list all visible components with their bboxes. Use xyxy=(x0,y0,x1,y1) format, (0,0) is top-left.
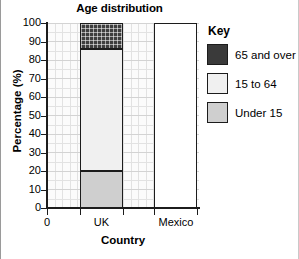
y-tick-50 xyxy=(41,116,47,117)
x-tick-label-mexico: Mexico xyxy=(146,216,206,228)
bar-uk-segment-15-to-64[interactable] xyxy=(80,49,123,171)
y-tick-40 xyxy=(41,134,47,135)
x-axis-title: Country xyxy=(47,234,199,246)
legend-label-15-to-64: 15 to 64 xyxy=(235,78,277,90)
y-tick-label-100: 100 xyxy=(7,17,41,28)
x-tick-uk-left xyxy=(80,209,81,215)
y-tick-100 xyxy=(41,23,47,24)
x-tick-mexico-right xyxy=(197,209,198,215)
y-tick-80 xyxy=(41,60,47,61)
y-axis-title: Percentage (%) xyxy=(11,41,23,181)
legend-title: Key xyxy=(208,24,299,38)
light-gray-swatch-icon xyxy=(207,102,228,123)
plot-area xyxy=(47,23,199,208)
white-swatch-icon xyxy=(207,73,228,94)
chart-title: Age distribution xyxy=(37,2,202,14)
legend-label-under-15: Under 15 xyxy=(235,107,282,119)
y-tick-label-0: 0 xyxy=(7,202,41,213)
bar-uk-segment-under-15[interactable] xyxy=(80,171,123,208)
y-tick-70 xyxy=(41,79,47,80)
x-tick-origin xyxy=(47,209,48,215)
legend-item-65-and-over[interactable]: 65 and over xyxy=(207,44,299,65)
y-tick-90 xyxy=(41,42,47,43)
legend: Key 65 and over 15 to 64 Under 15 xyxy=(207,24,299,131)
x-tick-mexico-left xyxy=(154,209,155,215)
x-axis-origin-label: 0 xyxy=(39,216,55,228)
bar-mexico-empty-outline[interactable] xyxy=(154,23,197,208)
y-tick-30 xyxy=(41,153,47,154)
y-tick-60 xyxy=(41,97,47,98)
legend-label-65-and-over: 65 and over xyxy=(235,49,296,61)
bar-uk[interactable] xyxy=(80,23,123,208)
legend-item-under-15[interactable]: Under 15 xyxy=(207,102,299,123)
bar-mexico[interactable] xyxy=(154,23,197,208)
x-tick-label-uk: UK xyxy=(79,216,124,228)
dark-cross-hatch-swatch-icon xyxy=(207,44,228,65)
chart-frame: Age distribution 100 90 80 70 60 50 40 3… xyxy=(0,0,299,259)
y-tick-label-10: 10 xyxy=(7,184,41,195)
legend-item-15-to-64[interactable]: 15 to 64 xyxy=(207,73,299,94)
y-tick-10 xyxy=(41,190,47,191)
x-tick-uk-right xyxy=(123,209,124,215)
bar-uk-segment-65-and-over[interactable] xyxy=(80,23,123,49)
y-tick-20 xyxy=(41,171,47,172)
